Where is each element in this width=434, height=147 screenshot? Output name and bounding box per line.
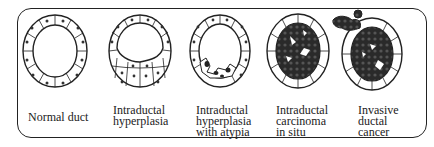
label-normal-duct: Normal duct xyxy=(28,112,88,123)
hyperplasia-duct-icon xyxy=(109,15,171,87)
atypia-duct-icon xyxy=(190,15,250,87)
label-hyperplasia-atypia: Intraductal hyperplasia with atypia xyxy=(196,105,251,138)
label-line: cancer xyxy=(358,127,399,138)
label-line: Normal duct xyxy=(28,112,88,123)
label-line: hyperplasia xyxy=(113,116,168,127)
normal-duct-icon xyxy=(23,15,87,87)
label-invasive: Invasive ductal cancer xyxy=(358,105,399,138)
label-dcis: Intraductal carcinoma in situ xyxy=(276,105,328,138)
label-line: with atypia xyxy=(196,127,251,138)
invasive-duct-icon xyxy=(333,10,402,90)
label-line: in situ xyxy=(276,127,328,138)
label-intraductal-hyperplasia: Intraductal hyperplasia xyxy=(113,105,168,127)
dcis-duct-icon xyxy=(267,14,329,88)
